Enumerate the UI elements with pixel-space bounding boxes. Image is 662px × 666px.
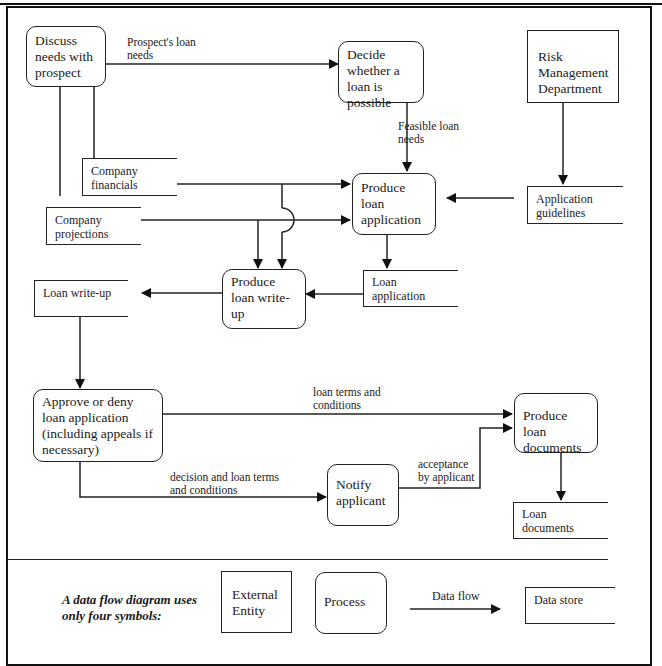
flow-label-loan-terms: loan terms and conditions	[313, 386, 398, 412]
flow-label-feasible-needs: Feasible loan needs	[398, 120, 478, 146]
legend-caption: A data flow diagram uses only four symbo…	[62, 592, 202, 624]
flow-label-prospect-needs: Prospect's loan needs	[127, 36, 197, 62]
process-decide-loan: Decide whether a loan is possible	[338, 41, 424, 103]
entity-risk-management: Risk Management Department	[527, 30, 619, 103]
flow-label-decision-terms: decision and loan terms and conditions	[170, 471, 290, 497]
process-produce-application: Produce loan application	[352, 173, 436, 235]
store-company-financials: Company financials	[82, 158, 177, 196]
store-loan-writeup: Loan write-up	[34, 280, 128, 317]
store-loan-documents: Loan documents	[513, 502, 608, 539]
process-notify-applicant: Notify applicant	[327, 464, 399, 526]
process-produce-writeup: Produce loan write-up	[222, 269, 306, 329]
legend-external-entity: External Entity	[221, 571, 292, 633]
process-discuss-needs: Discuss needs with prospect	[26, 26, 106, 87]
store-application-guidelines: Application guidelines	[527, 186, 623, 224]
store-company-projections: Company projections	[46, 207, 141, 245]
process-produce-documents: Produce loan documents	[514, 393, 598, 453]
legend-data-store: Data store	[525, 587, 615, 624]
legend-data-flow-label: Data flow	[432, 590, 480, 603]
process-approve-deny: Approve or deny loan application (includ…	[33, 389, 163, 462]
store-loan-application: Loan application	[363, 270, 458, 307]
flow-label-acceptance: acceptance by applicant	[418, 458, 480, 484]
legend-process: Process	[315, 572, 387, 634]
legend-separator	[8, 559, 608, 560]
